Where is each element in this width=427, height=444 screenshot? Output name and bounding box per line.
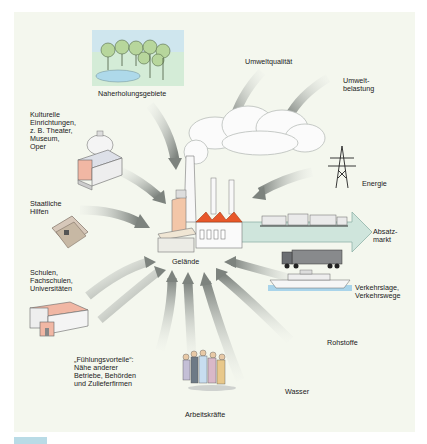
label-verkehr: Verkehrslage, Verkehrswege xyxy=(355,284,401,300)
label-wasser: Wasser xyxy=(285,388,309,396)
color-chip xyxy=(14,437,47,444)
label-umweltqualitaet: Umweltqualität xyxy=(245,58,292,66)
label-kultur: Kulturelle Einrichtungen, z. B. Theater,… xyxy=(30,111,76,151)
arrow-energie-icon xyxy=(252,172,312,200)
label-energie: Energie xyxy=(362,180,387,188)
arrow-arbeitskraefte-icon xyxy=(182,272,194,360)
diagram-artwork xyxy=(0,0,427,444)
arrow-staatlich-icon xyxy=(80,210,150,228)
label-arbeitskraefte: Arbeitskräfte xyxy=(185,411,225,419)
arrow-fuehlung-icon xyxy=(160,270,178,350)
label-umweltbelastung: Umwelt- belastung xyxy=(343,77,374,93)
power-pylon-icon xyxy=(328,146,356,188)
label-fuehlung: „Fühlungsvorteile“: Nähe anderer Betrieb… xyxy=(74,356,136,388)
label-naherholung: Naherholungsgebiete xyxy=(98,90,166,98)
truck-icon xyxy=(282,250,342,269)
park-lake-icon xyxy=(92,30,184,86)
arrow-schulen-icon xyxy=(88,256,166,320)
label-schulen: Schulen, Fachschulen, Universitäten xyxy=(30,269,73,293)
money-bills-icon xyxy=(52,216,88,248)
freight-train-icon xyxy=(260,214,348,226)
school-building-icon xyxy=(30,302,88,336)
label-rohstoffe: Rohstoffe xyxy=(327,339,358,347)
arrow-kultur-icon xyxy=(118,170,166,204)
label-staatlich: Staatliche Hilfen xyxy=(30,200,62,216)
label-gelaende: Gelände xyxy=(172,258,199,266)
theater-building-icon xyxy=(78,131,122,190)
label-absatzmarkt: Absatz- markt xyxy=(373,228,397,244)
factory-icon xyxy=(158,156,242,252)
arrow-naherholung-icon xyxy=(150,105,182,170)
smoke-cloud-icon xyxy=(184,106,325,164)
